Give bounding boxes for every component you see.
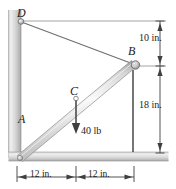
point-label-d: D	[17, 7, 26, 19]
dimension-line-10in	[156, 21, 165, 66]
point-label-c: C	[70, 85, 78, 97]
wall-support	[9, 10, 22, 158]
load-label-40lb: 40 lb	[81, 126, 101, 136]
dimension-label-12in-left: 12 in.	[30, 170, 52, 180]
point-label-b: B	[128, 45, 135, 57]
point-label-a: A	[18, 113, 25, 125]
statics-figure: D B C A 40 lb 10 in. 18 in. 12 in. 12 in…	[0, 0, 176, 189]
dimension-label-10in: 10 in.	[139, 33, 162, 43]
cable-db	[22, 22, 135, 65]
figure-canvas	[0, 0, 176, 189]
pin-b	[131, 61, 139, 69]
dimension-label-12in-right: 12 in.	[88, 170, 110, 180]
pin-a	[17, 155, 22, 160]
dimension-label-18in: 18 in.	[139, 100, 162, 110]
boom-ab	[18, 61, 137, 162]
